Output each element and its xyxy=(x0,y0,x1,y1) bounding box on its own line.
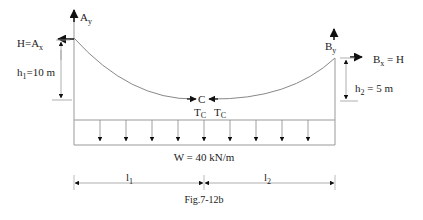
label-h-ax: H=Ax xyxy=(17,37,43,52)
figure-caption: Fig.7-12b xyxy=(184,194,223,205)
label-by: By xyxy=(325,40,336,55)
label-c: C xyxy=(198,93,205,105)
cable-curve xyxy=(74,38,195,99)
label-bx: Bx = H xyxy=(373,53,404,68)
label-h1: h1=10 m xyxy=(17,66,55,81)
cable-diagram: Ay H=Ax h1=10 m By Bx = H h2 = 5 m C TC … xyxy=(0,0,423,220)
label-l2: l2 xyxy=(264,171,271,186)
label-tc-right: TC xyxy=(214,106,226,120)
label-h2: h2 = 5 m xyxy=(355,82,393,97)
label-ay: Ay xyxy=(80,11,92,26)
label-l1: l1 xyxy=(126,171,133,186)
label-tc-left: TC xyxy=(194,106,206,120)
cable-curve-right xyxy=(210,58,335,99)
load-arrows xyxy=(100,120,308,141)
label-load: W = 40 kN/m xyxy=(174,151,235,163)
